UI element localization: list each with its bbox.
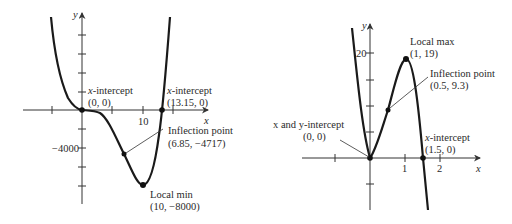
right-point-inflection	[386, 108, 391, 113]
right-inflection-coords: (0.5, 9.3)	[430, 80, 469, 92]
left-graph: 10 −4000 x y x-intercept (0, 0) x-interc…	[23, 9, 233, 213]
left-point-x-intercept	[159, 107, 165, 113]
left-y-tick-label-neg4000: −4000	[52, 143, 79, 154]
right-x-intercept-title: x-intercept	[424, 132, 470, 143]
right-point-local-max	[403, 56, 409, 62]
right-intercept-leader	[340, 140, 369, 157]
right-local-max-title: Local max	[410, 36, 455, 47]
left-inflection-coords: (6.85, −4717)	[168, 138, 226, 150]
right-local-max-coords: (1, 19)	[410, 48, 438, 60]
left-point-origin	[79, 107, 85, 113]
left-y-axis-label: y	[72, 9, 78, 20]
left-inflection-title: Inflection point	[168, 125, 233, 136]
right-xy-intercept-title: x and y-intercept	[273, 119, 344, 130]
left-x-intercept-2-title: x-intercept	[166, 85, 212, 96]
right-graph: 20 1 2 x y Local max (1, 19) Inflection …	[273, 20, 495, 210]
left-local-min-coords: (10, −8000)	[150, 201, 200, 213]
right-y-axis-label: y	[361, 20, 367, 31]
right-x-tick-label-1: 1	[402, 163, 407, 174]
right-point-x-intercept	[420, 155, 426, 161]
left-point-inflection	[122, 152, 127, 157]
right-xy-intercept-coords: (0, 0)	[303, 131, 326, 143]
right-x-intercept-coords: (1.5, 0)	[425, 144, 456, 156]
right-inflection-title: Inflection point	[430, 68, 495, 79]
left-x-intercept-1-coords: (0, 0)	[88, 97, 111, 109]
left-point-local-min	[140, 182, 146, 188]
right-x-axis-label: x	[475, 163, 481, 174]
figure-canvas: 10 −4000 x y x-intercept (0, 0) x-interc…	[0, 0, 512, 224]
right-y-tick-label-20: 20	[356, 48, 367, 59]
left-local-min-title: Local min	[150, 189, 194, 200]
right-x-tick-label-2: 2	[437, 163, 442, 174]
left-x-tick-label-10: 10	[138, 116, 149, 127]
left-x-intercept-1-title: x-intercept	[87, 85, 133, 96]
left-x-intercept-2-coords: (13.15, 0)	[167, 97, 209, 109]
